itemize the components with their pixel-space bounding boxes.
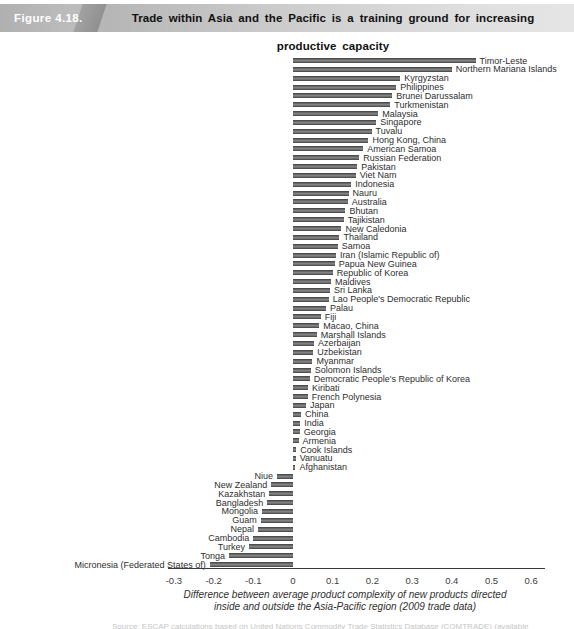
bar-label: Lao People's Democratic Republic <box>333 294 470 304</box>
bar-label: Afghanistan <box>299 462 347 472</box>
bar <box>293 129 372 134</box>
bar <box>293 376 310 381</box>
bar <box>293 279 331 284</box>
x-tick-label: 0 <box>290 575 295 586</box>
bar <box>293 412 301 417</box>
bar-chart: Timor-LesteNorthern Mariana IslandsKyrgy… <box>0 0 574 629</box>
x-tick-label: -0.2 <box>205 575 221 586</box>
bar <box>293 67 452 72</box>
bar <box>293 191 349 196</box>
bar <box>210 562 293 567</box>
x-tick-label: 0.1 <box>326 575 339 586</box>
bar <box>293 155 359 160</box>
bar <box>293 403 306 408</box>
bar <box>293 182 351 187</box>
bar <box>293 385 308 390</box>
bar-label: Northern Mariana Islands <box>456 64 557 74</box>
bar <box>293 146 363 151</box>
x-tick-label: 0.5 <box>485 575 498 586</box>
x-tick-label: -0.3 <box>166 575 182 586</box>
bar <box>293 332 317 337</box>
bar <box>293 58 476 63</box>
bar <box>293 438 299 443</box>
bar <box>293 447 296 452</box>
x-tick-label: 0.3 <box>405 575 418 586</box>
source-note: Source: ESCAP calculations based on Unit… <box>112 622 574 629</box>
bar <box>269 491 293 496</box>
bar <box>293 208 345 213</box>
bar <box>229 553 293 558</box>
x-axis-label-line1: Difference between average product compl… <box>130 589 560 600</box>
bar <box>293 226 341 231</box>
bar <box>293 76 400 81</box>
bar <box>293 323 319 328</box>
bar <box>293 199 348 204</box>
bar <box>293 297 329 302</box>
bar <box>293 138 368 143</box>
bar <box>293 120 376 125</box>
bar <box>262 509 293 514</box>
bar <box>293 421 300 426</box>
x-tick-label: 0.6 <box>525 575 538 586</box>
bar <box>293 270 333 275</box>
bar <box>293 394 308 399</box>
bar <box>293 465 295 470</box>
bar <box>293 111 378 116</box>
figure-page: Figure 4.18. Trade within Asia and the P… <box>0 0 574 629</box>
bar <box>293 359 312 364</box>
bar <box>293 314 321 319</box>
bar <box>249 544 293 549</box>
bar <box>293 456 296 461</box>
bar <box>293 85 396 90</box>
x-tick-label: -0.1 <box>245 575 261 586</box>
bar <box>253 536 293 541</box>
bar <box>293 341 314 346</box>
bar <box>293 429 300 434</box>
bar <box>293 368 311 373</box>
bar <box>271 482 293 487</box>
bar <box>293 93 392 98</box>
x-tick-label: 0.4 <box>445 575 458 586</box>
x-axis-line <box>168 568 545 569</box>
bar <box>293 102 390 107</box>
bar <box>293 244 338 249</box>
x-tick-label: 0.2 <box>366 575 379 586</box>
bar <box>277 474 293 479</box>
bar <box>293 217 344 222</box>
bar <box>293 306 326 311</box>
bar <box>267 500 293 505</box>
bar <box>293 253 336 258</box>
bar <box>293 350 313 355</box>
bar <box>293 261 335 266</box>
bar <box>293 164 357 169</box>
bar <box>293 173 356 178</box>
bar <box>293 288 330 293</box>
bar <box>293 235 339 240</box>
x-axis-label-line2: inside and outside the Asia-Pacific regi… <box>130 601 560 612</box>
bar <box>261 518 293 523</box>
bar <box>258 527 293 532</box>
